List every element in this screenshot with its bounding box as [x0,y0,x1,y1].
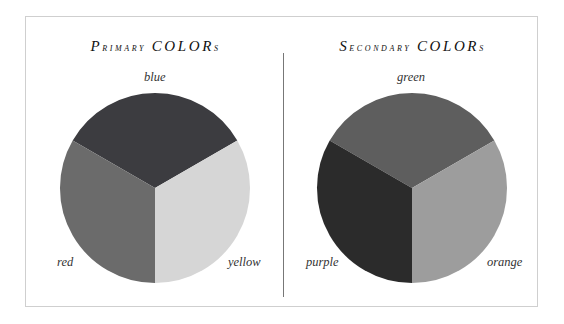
label-orange: orange [487,255,522,270]
pie-charts [0,0,564,324]
label-purple: purple [306,255,339,270]
primary-pie [60,93,250,283]
label-green: green [397,70,425,85]
secondary-pie [317,93,507,283]
label-yellow: yellow [228,255,261,270]
label-blue: blue [144,70,166,85]
label-red: red [57,255,73,270]
